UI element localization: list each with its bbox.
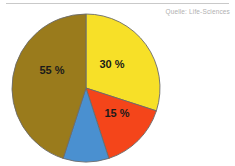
pie-chart-canvas: 30 %15 %55 % [0, 0, 235, 166]
pie-chart-figure: Quelle: Life-Sciences 30 %15 %55 % [0, 0, 235, 166]
pie-slices-group [12, 14, 160, 162]
red-slice-label: 15 % [104, 107, 129, 119]
brown-slice-label: 55 % [39, 64, 64, 76]
yellow-slice-label: 30 % [99, 58, 124, 70]
